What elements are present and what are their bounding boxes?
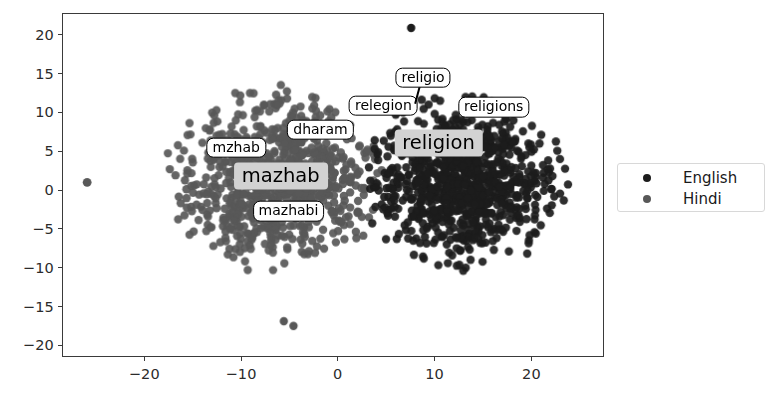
- chart-legend: English Hindi: [617, 163, 765, 212]
- annotation-label-mazhab: mazhab: [234, 163, 328, 190]
- y-tick-mark: [58, 267, 62, 268]
- y-tick-label: −5: [32, 221, 54, 237]
- y-tick-mark: [58, 345, 62, 346]
- y-tick-mark: [58, 306, 62, 307]
- x-tick-mark: [434, 357, 435, 361]
- x-tick-label: 10: [425, 366, 444, 382]
- scatter-plot-figure: mzhabdharammazhabmazhabirelegionreligior…: [0, 0, 778, 404]
- annotation-label-dharam: dharam: [287, 119, 353, 140]
- legend-marker-hindi: [643, 195, 651, 203]
- x-tick-label: 0: [333, 366, 342, 382]
- y-tick-label: −10: [23, 260, 54, 276]
- annotation-label-relegion: relegion: [349, 95, 418, 116]
- y-tick-mark: [58, 228, 62, 229]
- legend-label-english: English: [683, 169, 737, 187]
- x-tick-label: 20: [522, 366, 541, 382]
- y-tick-label: 0: [45, 182, 54, 198]
- x-tick-mark: [531, 357, 532, 361]
- annotation-label-religio: religio: [395, 67, 450, 88]
- y-tick-label: 5: [45, 143, 54, 159]
- x-tick-label: −20: [129, 366, 160, 382]
- y-tick-label: 10: [35, 104, 54, 120]
- y-tick-label: −15: [23, 299, 54, 315]
- annotation-label-religion: religion: [394, 129, 483, 156]
- x-tick-mark: [241, 357, 242, 361]
- x-tick-label: −10: [225, 366, 256, 382]
- y-tick-mark: [58, 151, 62, 152]
- y-tick-label: 15: [35, 66, 54, 82]
- annotation-label-mazhabi: mazhabi: [253, 201, 325, 222]
- annotation-label-religions: religions: [458, 97, 529, 118]
- y-tick-mark: [58, 190, 62, 191]
- annotation-label-mzhab: mzhab: [207, 137, 266, 158]
- y-tick-mark: [58, 34, 62, 35]
- x-tick-mark: [144, 357, 145, 361]
- legend-label-hindi: Hindi: [683, 190, 722, 208]
- y-tick-label: 20: [35, 27, 54, 43]
- y-tick-label: −20: [23, 337, 54, 353]
- scatter-points-canvas: [63, 14, 603, 356]
- legend-marker-english: [643, 174, 651, 182]
- y-tick-mark: [58, 112, 62, 113]
- legend-entry-hindi: Hindi: [618, 187, 764, 211]
- x-tick-mark: [337, 357, 338, 361]
- plot-axes-frame: mzhabdharammazhabmazhabirelegionreligior…: [62, 13, 604, 357]
- y-tick-mark: [58, 73, 62, 74]
